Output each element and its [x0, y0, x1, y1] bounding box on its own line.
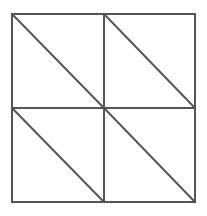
geometric-figure: [0, 0, 207, 216]
figure-stage: [0, 0, 207, 216]
